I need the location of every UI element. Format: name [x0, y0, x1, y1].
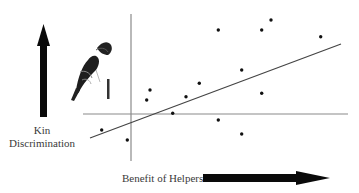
trend-line: [90, 44, 341, 138]
scatter-figure: [0, 0, 359, 193]
up-arrow-icon: [37, 24, 50, 117]
y-label-line-1: Kin: [0, 124, 84, 137]
bird-illustration: [71, 42, 112, 101]
right-arrow-icon: [203, 171, 330, 185]
y-label-line-2: Discrimination: [0, 137, 84, 150]
data-points: [100, 18, 322, 141]
x-axis-label: Benefit of Helpers: [122, 172, 203, 185]
y-axis-label: Kin Discrimination: [0, 124, 84, 150]
